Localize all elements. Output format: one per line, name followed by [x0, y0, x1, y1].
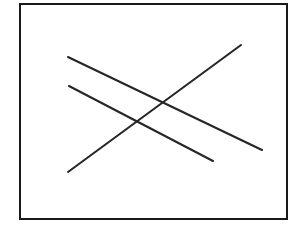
line-figure-canvas [0, 0, 302, 228]
figure-container [0, 0, 302, 228]
rectangular-border [20, 4, 287, 219]
